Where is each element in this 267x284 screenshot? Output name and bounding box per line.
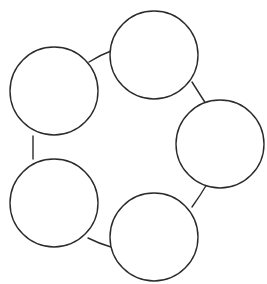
node-group: [10, 11, 264, 281]
cycle-diagram: [0, 0, 267, 284]
link-top-upperright: [192, 82, 206, 104]
node-circle-lower-right[interactable]: [110, 193, 198, 281]
diagram-canvas: [0, 0, 267, 284]
node-circle-upper-right[interactable]: [176, 100, 264, 188]
link-upperright-lowerright: [192, 184, 207, 207]
link-lowerright-lowerleft: [88, 238, 111, 247]
node-circle-upper-left[interactable]: [10, 47, 98, 135]
node-circle-top[interactable]: [110, 11, 198, 99]
link-upperleft-top: [89, 51, 111, 62]
node-circle-lower-left[interactable]: [10, 159, 98, 247]
